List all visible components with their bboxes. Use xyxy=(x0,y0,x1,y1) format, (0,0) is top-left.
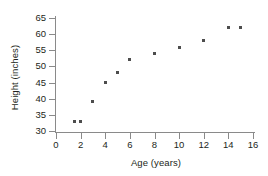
y-tick-label: 55 xyxy=(22,45,46,55)
y-tick-mark xyxy=(49,34,55,35)
x-tick-label: 6 xyxy=(120,140,140,150)
data-point xyxy=(104,81,107,84)
y-tick-mark xyxy=(49,115,55,116)
data-point xyxy=(178,46,181,49)
y-tick-label: 40 xyxy=(22,94,46,104)
y-tick-mark xyxy=(49,83,55,84)
data-point xyxy=(79,120,82,123)
y-tick-label: 50 xyxy=(22,61,46,71)
x-tick-label: 12 xyxy=(194,140,214,150)
x-tick-label: 10 xyxy=(169,140,189,150)
data-point xyxy=(91,100,94,103)
y-tick-label: 65 xyxy=(22,13,46,23)
x-tick-label: 14 xyxy=(218,140,238,150)
plot-area xyxy=(56,18,253,131)
scatter-plot-figure: Height (inches) Age (years) 303540455055… xyxy=(0,0,268,176)
data-point xyxy=(153,52,156,55)
data-point xyxy=(73,120,76,123)
x-tick-label: 8 xyxy=(145,140,165,150)
y-tick-label: 30 xyxy=(22,126,46,136)
y-tick-label: 45 xyxy=(22,78,46,88)
y-tick-mark xyxy=(49,66,55,67)
y-tick-mark xyxy=(49,131,55,132)
y-tick-label: 60 xyxy=(22,29,46,39)
data-point xyxy=(202,39,205,42)
data-point xyxy=(227,26,230,29)
data-point xyxy=(116,71,119,74)
y-tick-mark xyxy=(49,18,55,19)
x-tick-label: 0 xyxy=(46,140,66,150)
y-tick-mark xyxy=(49,99,55,100)
y-tick-label: 35 xyxy=(22,110,46,120)
y-tick-mark xyxy=(49,50,55,51)
x-tick-label: 2 xyxy=(71,140,91,150)
x-tick-label: 4 xyxy=(95,140,115,150)
data-point xyxy=(128,58,131,61)
x-axis-title: Age (years) xyxy=(56,157,256,168)
x-tick-label: 16 xyxy=(243,140,263,150)
data-point xyxy=(239,26,242,29)
y-axis-title: Height (inches) xyxy=(9,23,20,133)
